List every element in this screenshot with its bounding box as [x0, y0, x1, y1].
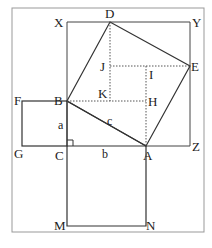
label-x: X — [54, 15, 64, 30]
label-side-b: b — [102, 147, 108, 161]
label-b: B — [54, 93, 63, 108]
label-e: E — [191, 59, 199, 74]
label-d: D — [105, 6, 114, 21]
label-a: A — [143, 148, 153, 163]
pythagorean-diagram: X D Y J I E F B K H G C A Z M N a b c — [0, 0, 212, 248]
label-f: F — [14, 93, 21, 108]
label-c: C — [55, 148, 64, 163]
right-angle-marker — [67, 140, 73, 146]
label-side-c: c — [107, 114, 112, 128]
square-c — [67, 22, 190, 146]
dotted-construction-lines — [67, 22, 190, 146]
label-n: N — [146, 218, 156, 233]
rectangle-xyzc — [67, 22, 190, 146]
label-i: I — [149, 67, 153, 82]
label-j: J — [100, 59, 105, 74]
label-k: K — [98, 86, 108, 101]
label-side-a: a — [58, 118, 64, 132]
label-z: Z — [192, 139, 200, 154]
label-g: G — [14, 146, 23, 161]
label-h: H — [148, 94, 157, 109]
label-y: Y — [192, 15, 202, 30]
label-m: M — [54, 218, 66, 233]
